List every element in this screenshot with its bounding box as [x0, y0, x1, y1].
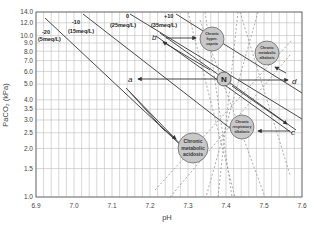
svg-text:7.2: 7.2 [145, 202, 154, 209]
svg-text:(35meq/L): (35meq/L) [151, 22, 177, 28]
label-b: b [152, 33, 157, 42]
x-tick-labels: 6.97.07.17.27.37.47.57.6 [31, 202, 306, 209]
svg-text:acidosis: acidosis [183, 151, 203, 157]
svg-text:(25meq/L): (25meq/L) [110, 22, 136, 28]
svg-text:Chronic: Chronic [205, 32, 219, 36]
acid-base-nomogram: 1.01.52.02.53.03.54.05.06.07.08.09.010.0… [0, 0, 314, 228]
svg-text:alkalosis: alkalosis [234, 130, 249, 134]
svg-text:9.0: 9.0 [24, 39, 33, 46]
svg-text:(15meq/L): (15meq/L) [68, 28, 94, 34]
svg-text:14.0: 14.0 [20, 8, 33, 15]
svg-text:3.0: 3.0 [24, 116, 33, 123]
svg-text:1.5: 1.5 [24, 165, 33, 172]
svg-text:7.3: 7.3 [183, 202, 192, 209]
svg-text:metabolic: metabolic [259, 51, 276, 55]
svg-text:Chronic: Chronic [260, 46, 274, 50]
label-c: c [291, 128, 295, 137]
svg-text:4.0: 4.0 [24, 96, 33, 103]
region-hypercapnia: Chronic hyper- capnia [200, 27, 224, 51]
svg-text:7.0: 7.0 [69, 202, 78, 209]
svg-text:-20: -20 [42, 29, 50, 35]
svg-text:(5meq/L): (5meq/L) [38, 36, 61, 42]
svg-text:2.0: 2.0 [24, 145, 33, 152]
svg-text:0: 0 [126, 13, 129, 19]
normal-point: N [217, 72, 231, 86]
region-metabolic-acidosis: Chronic metabolic acidosis [178, 133, 208, 163]
label-a: a [128, 75, 133, 84]
svg-text:3.5: 3.5 [24, 105, 33, 112]
svg-text:metabolic: metabolic [181, 145, 205, 151]
svg-text:2.5: 2.5 [24, 129, 33, 136]
svg-text:respiratory: respiratory [233, 125, 252, 129]
svg-text:6.0: 6.0 [24, 68, 33, 75]
svg-text:5.0: 5.0 [24, 80, 33, 87]
region-metabolic-alkalosis: Chronic metabolic alkalosis [255, 41, 279, 65]
svg-text:12.0: 12.0 [20, 19, 33, 26]
svg-text:+10: +10 [164, 13, 173, 19]
svg-text:1.0: 1.0 [24, 193, 33, 200]
svg-text:Chronic: Chronic [184, 138, 203, 144]
svg-text:7.4: 7.4 [221, 202, 230, 209]
x-axis-label: pH [162, 213, 172, 222]
y-axis-label: PaCO₂ (kPa) [1, 83, 10, 127]
svg-text:7.0: 7.0 [24, 57, 33, 64]
svg-text:N: N [221, 75, 227, 84]
arrow-to-metalk [275, 67, 286, 73]
label-d: d [292, 77, 297, 86]
svg-text:6.9: 6.9 [31, 202, 40, 209]
svg-text:alkalosis: alkalosis [259, 56, 274, 60]
svg-text:hyper-: hyper- [207, 37, 219, 41]
svg-text:Chronic: Chronic [235, 120, 249, 124]
y-tick-labels: 1.01.52.02.53.03.54.05.06.07.08.09.010.0… [20, 8, 33, 200]
svg-text:7.1: 7.1 [107, 202, 116, 209]
svg-text:7.6: 7.6 [297, 202, 306, 209]
region-respiratory-alkalosis: Chronic respiratory alkalosis [230, 115, 254, 139]
svg-text:8.0: 8.0 [24, 48, 33, 55]
svg-text:-10: -10 [72, 19, 80, 25]
svg-text:10.0: 10.0 [20, 32, 33, 39]
svg-text:capnia: capnia [206, 42, 218, 46]
svg-text:7.5: 7.5 [259, 202, 268, 209]
